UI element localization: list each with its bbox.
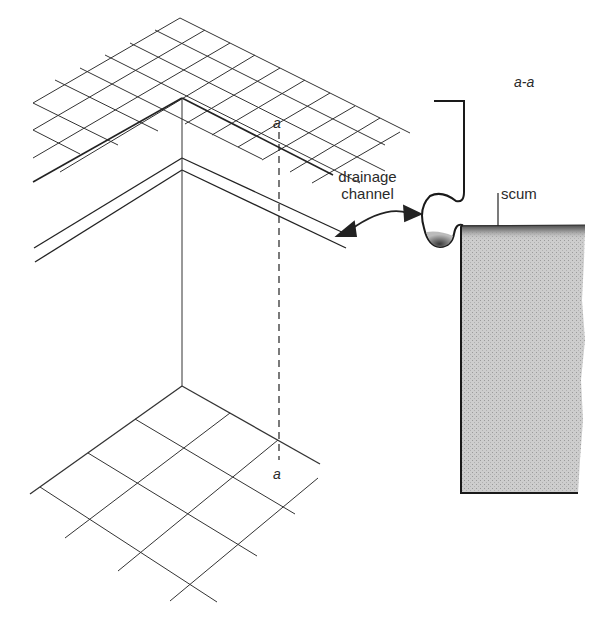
- section-marker-bottom: a: [273, 465, 281, 483]
- scum-layer: [461, 225, 585, 240]
- liquid-body: [461, 226, 585, 493]
- scum-label: scum: [501, 185, 537, 203]
- drainage-channel-band: [34, 158, 346, 262]
- diagram-canvas: [0, 0, 611, 626]
- drainage-label-line2: channel: [330, 185, 405, 203]
- wall-top-edge: [33, 98, 333, 182]
- section-title: a-a: [514, 73, 534, 91]
- upper-floor-grid: [33, 18, 410, 183]
- drainage-arrow: [337, 206, 421, 236]
- section-marker-top: a: [273, 114, 281, 132]
- drainage-label-line1: drainage: [330, 168, 405, 186]
- lower-floor-grid: [30, 386, 320, 602]
